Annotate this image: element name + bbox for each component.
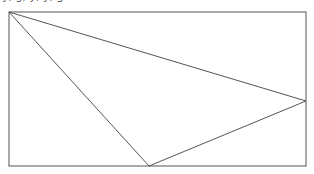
diagram-canvas	[0, 0, 314, 174]
triangle-edge-top-right	[9, 12, 306, 101]
bounding-rectangle	[9, 12, 306, 166]
triangle-edge-right-bottom	[149, 101, 306, 166]
triangle-edge-bottom-left	[9, 12, 149, 166]
